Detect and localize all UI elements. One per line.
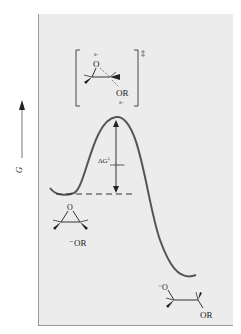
product-substituent-label: OR: [200, 310, 213, 320]
reactant-structure: O ⁻OR: [53, 203, 88, 248]
oxygen-label: O: [93, 59, 100, 69]
product-structure: ⁻O OR: [158, 283, 213, 320]
arrow-up-icon: [113, 120, 119, 127]
axis-arrowhead-icon: [19, 100, 25, 110]
reaction-coordinate-curve: [50, 117, 196, 276]
energy-diagram: G ΔG‡oxirane ‡ δ− O OR δ− O: [0, 0, 241, 334]
oxygen-partial-charge: δ−: [94, 52, 99, 57]
arrow-down-icon: [113, 186, 119, 193]
barrier-arrow: [113, 120, 119, 193]
axis-label: G: [14, 166, 24, 173]
barrier-label: ΔG‡oxirane: [98, 156, 126, 167]
transition-state-structure: ‡ δ− O OR δ−: [76, 49, 145, 106]
leaving-group-partial-charge: δ−: [119, 100, 124, 105]
nucleophile-label: ⁻OR: [69, 238, 87, 248]
product-oxygen-label: ⁻O: [158, 283, 168, 292]
g-axis: G: [14, 100, 25, 173]
dagger-symbol: ‡: [141, 49, 145, 58]
leaving-group-label: OR: [116, 88, 129, 98]
reactant-oxygen-label: O: [67, 203, 73, 212]
